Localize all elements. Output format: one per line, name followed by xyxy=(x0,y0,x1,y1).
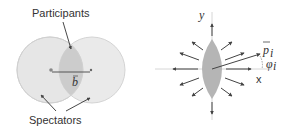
center-left xyxy=(49,68,53,72)
center-right xyxy=(90,69,92,71)
left-panel: b Participants Spectators xyxy=(17,7,125,126)
right-panel: y x p i φ i xyxy=(155,8,276,120)
angle-subscript: i xyxy=(273,59,276,73)
x-axis-label: x xyxy=(256,73,262,85)
angle-label: φ xyxy=(266,57,273,71)
spectators-label: Spectators xyxy=(29,114,82,126)
y-axis-label: y xyxy=(198,8,205,22)
participants-label: Participants xyxy=(32,7,90,19)
collision-diagram: b Participants Spectators y x p xyxy=(0,0,289,133)
angle-arc xyxy=(260,56,262,69)
impact-vector-label: b xyxy=(72,75,78,89)
momentum-label: p xyxy=(262,43,269,57)
